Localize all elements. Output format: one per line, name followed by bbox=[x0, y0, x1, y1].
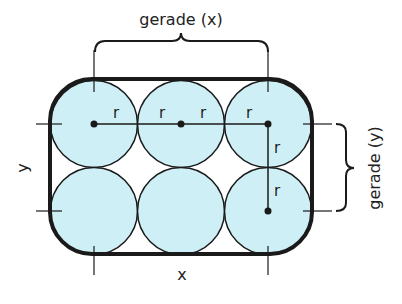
circles bbox=[51, 81, 312, 255]
right-brace bbox=[336, 124, 354, 211]
r-label: r bbox=[159, 104, 166, 122]
top-label: gerade (x) bbox=[139, 10, 222, 29]
r-label: r bbox=[274, 182, 281, 200]
r-label: r bbox=[246, 104, 253, 122]
r-label: r bbox=[200, 104, 207, 122]
r-label: r bbox=[274, 139, 281, 157]
right-label: gerade (y) bbox=[365, 126, 384, 209]
circle-r2-c2 bbox=[138, 168, 225, 255]
top-brace bbox=[95, 33, 268, 52]
circle-packing-diagram: r r r r r r gerade (x) gerade (y) x y bbox=[0, 0, 402, 304]
bottom-label: x bbox=[177, 265, 186, 284]
r-label: r bbox=[113, 104, 120, 122]
left-label: y bbox=[13, 163, 32, 172]
